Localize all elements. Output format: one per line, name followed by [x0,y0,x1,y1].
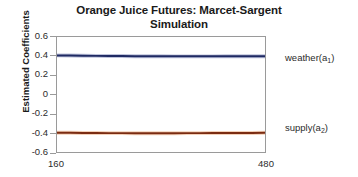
y-tick-label-4: -0.2 [2,108,48,118]
series-label-weather-suffix: ) [331,52,334,63]
chart-title-line-2: Simulation [0,17,358,31]
y-tick-label-2: 0.2 [2,69,48,79]
x-tick-label-1: 480 [246,158,286,169]
series-label-weather-sub: 1 [327,57,331,64]
x-tick-label-0: 160 [36,158,76,169]
y-tick-label-0: 0.6 [2,31,48,41]
chart-title: Orange Juice Futures: Marcet-Sargent Sim… [0,3,358,31]
series-weather-line [57,55,265,56]
plot-area [56,36,266,153]
y-tick-mark-6 [50,153,56,154]
series-label-supply: supply(a2) [285,122,328,133]
chart-title-line-1: Orange Juice Futures: Marcet-Sargent [0,3,358,17]
y-tick-label-6: -0.6 [2,147,48,157]
y-tick-label-1: 0.4 [2,50,48,60]
chart-figure: Orange Juice Futures: Marcet-Sargent Sim… [0,0,358,177]
series-label-weather-text: weather(a [285,52,327,63]
series-canvas [57,37,265,152]
series-label-weather: weather(a1) [285,52,334,63]
series-label-supply-suffix: ) [325,122,328,133]
y-axis-title: Estimated Coefficients [20,2,31,122]
y-tick-label-3: 0 [2,89,48,99]
series-label-supply-sub: 2 [321,127,325,134]
series-label-supply-text: supply(a [285,122,321,133]
y-tick-label-5: -0.4 [2,128,48,138]
